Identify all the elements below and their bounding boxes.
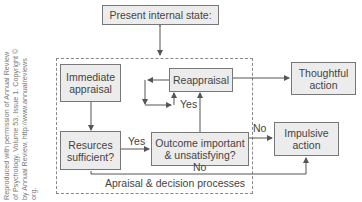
node-thoughtful-action: Thoughtful action	[291, 62, 356, 95]
node-label: Reappraisal	[173, 74, 229, 86]
node-label: Thoughtful	[299, 67, 349, 79]
node-present-internal-state: Present internal state:	[102, 5, 219, 25]
node-label: Impulsive	[284, 127, 328, 139]
node-label: action	[292, 139, 320, 151]
edge-label-no-outcome: No	[253, 122, 266, 134]
edge-label-no-bottom: No	[193, 161, 206, 173]
node-label: Immediate	[66, 71, 115, 83]
node-label: action	[309, 79, 337, 91]
edge-label-yes-outcome: Yes	[180, 98, 197, 110]
edge-label-yes-resources: Yes	[128, 135, 145, 147]
node-label: Outcome important	[155, 137, 244, 149]
node-impulsive-action: Impulsive action	[274, 122, 339, 156]
container-label: Apraisal & decision processes	[105, 177, 245, 189]
node-label: Present internal state:	[109, 9, 211, 21]
node-reappraisal: Reappraisal	[169, 68, 233, 92]
node-immediate-appraisal: Immediate appraisal	[60, 64, 121, 102]
node-label: Resurces	[68, 139, 112, 151]
node-label: & unsatisfying?	[164, 149, 235, 161]
node-label: appraisal	[69, 83, 112, 95]
node-resources-sufficient: Resurces sufficient?	[60, 131, 121, 170]
node-label: sufficient?	[67, 151, 114, 163]
